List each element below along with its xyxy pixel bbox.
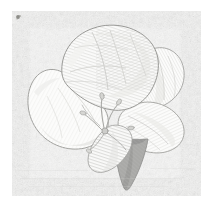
pistil-center	[102, 128, 108, 134]
engraving-canvas	[0, 0, 213, 206]
engraving-plate	[0, 0, 213, 206]
botanical-figure: Pale, faded botanical engraving of an op…	[0, 0, 213, 206]
